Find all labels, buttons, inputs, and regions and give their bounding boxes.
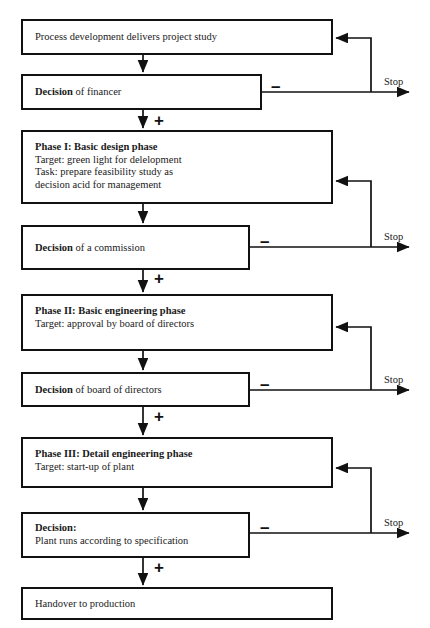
flowchart-canvas: Process development delivers project stu… <box>0 0 430 628</box>
node-decision-commission[interactable]: Decision of a commission <box>21 225 250 270</box>
node-handover-text: Handover to production <box>35 597 135 610</box>
plus-sign-2: + <box>154 270 164 287</box>
node-process-development-text: Process development delivers project stu… <box>35 31 217 44</box>
node-phase-2-text: Phase II: Basic engineering phaseTarget:… <box>35 305 194 330</box>
stop-label-1: Stop <box>384 76 403 87</box>
node-phase-3-text: Phase III: Detail engineering phaseTarge… <box>35 448 193 473</box>
stop-label-4: Stop <box>384 517 403 528</box>
minus-sign-3: – <box>260 376 269 393</box>
minus-sign-2: – <box>260 233 269 250</box>
node-decision-board[interactable]: Decision of board of directors <box>21 372 250 407</box>
node-handover[interactable]: Handover to production <box>21 587 333 620</box>
feedback-loop-3 <box>336 327 371 390</box>
stop-label-2: Stop <box>384 231 403 242</box>
minus-sign-1: – <box>271 78 280 95</box>
feedback-loop-4 <box>336 468 371 533</box>
node-phase-1[interactable]: Phase I: Basic design phaseTarget: green… <box>21 130 333 204</box>
node-process-development[interactable]: Process development delivers project stu… <box>21 19 333 55</box>
node-decision-commission-text: Decision of a commission <box>35 241 145 254</box>
node-phase-2[interactable]: Phase II: Basic engineering phaseTarget:… <box>21 294 333 351</box>
feedback-loop-1 <box>336 38 371 92</box>
feedback-loop-2 <box>336 181 371 247</box>
minus-sign-4: – <box>260 519 269 536</box>
node-decision-financer[interactable]: Decision of financer <box>21 74 262 110</box>
plus-sign-4: + <box>154 559 164 576</box>
node-decision-financer-text: Decision of financer <box>35 86 121 99</box>
node-decision-plant-text: Decision:Plant runs according to specifi… <box>35 522 188 547</box>
node-phase-3[interactable]: Phase III: Detail engineering phaseTarge… <box>21 437 333 488</box>
node-decision-board-text: Decision of board of directors <box>35 383 162 396</box>
plus-sign-3: + <box>154 408 164 425</box>
node-phase-1-text: Phase I: Basic design phaseTarget: green… <box>35 141 182 191</box>
plus-sign-1: + <box>154 112 164 129</box>
node-decision-plant[interactable]: Decision:Plant runs according to specifi… <box>21 512 250 558</box>
stop-label-3: Stop <box>384 374 403 385</box>
